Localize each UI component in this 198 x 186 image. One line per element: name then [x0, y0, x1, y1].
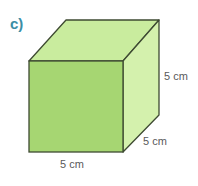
width-label: 5 cm — [60, 158, 84, 170]
height-label: 5 cm — [164, 70, 188, 82]
depth-label: 5 cm — [143, 135, 167, 147]
cube-front-face — [29, 61, 123, 152]
cube-diagram: 5 cm 5 cm 5 cm — [0, 0, 198, 186]
